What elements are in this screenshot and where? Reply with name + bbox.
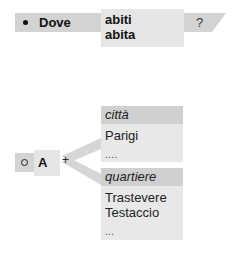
citta-header: città [101, 106, 183, 124]
quartiere-item-ellipsis: ... [101, 224, 183, 239]
dove-label: Dove [39, 14, 71, 31]
verb-option: abiti [105, 12, 132, 27]
filled-bullet-icon [23, 20, 28, 25]
quartiere-header: quartiere [101, 168, 183, 186]
a-segment: A [34, 150, 60, 176]
citta-item-ellipsis: .... [101, 147, 183, 162]
quartiere-panel: quartiere Trastevere Testaccio ... [101, 168, 183, 240]
citta-panel: città Parigi .... [101, 106, 183, 162]
sentence-diagram: Dove abiti abita ? A + città Parigi ....… [0, 0, 239, 264]
citta-item: Parigi [101, 128, 183, 143]
o-segment [15, 153, 34, 172]
slanted-arrow-shape [184, 13, 226, 32]
verb-options-box: abiti abita [101, 9, 184, 47]
quartiere-item: Testaccio [101, 205, 183, 220]
dove-segment: Dove [15, 13, 103, 32]
question-mark-label: ? [196, 14, 203, 31]
a-label: A [38, 155, 47, 170]
verb-option: abita [105, 27, 135, 42]
question-segment: ? [184, 13, 226, 32]
quartiere-item: Trastevere [101, 190, 183, 205]
plus-label: + [62, 153, 69, 167]
hollow-bullet-icon [21, 159, 28, 166]
